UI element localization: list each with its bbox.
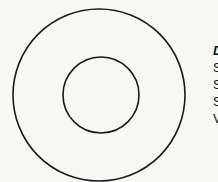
- diagram-labels: D S S S V: [213, 42, 218, 127]
- label-title: D: [213, 42, 218, 59]
- label-line-2: S: [213, 76, 218, 93]
- concentric-circles-diagram: [0, 0, 218, 182]
- label-line-1: S: [213, 59, 218, 76]
- inner-circle: [63, 57, 139, 133]
- label-line-4: V: [213, 110, 218, 127]
- label-line-3: S: [213, 93, 218, 110]
- outer-circle: [13, 9, 185, 181]
